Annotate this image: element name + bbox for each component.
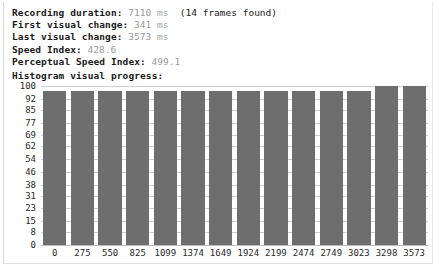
histogram-bar xyxy=(98,91,121,245)
metric-value: 7110 xyxy=(123,7,152,18)
metric-label: Speed Index: xyxy=(12,44,82,55)
x-axis-tick-label: 2474 xyxy=(290,249,318,258)
metric-unit: ms xyxy=(151,19,168,30)
metric-unit: ms xyxy=(151,7,168,18)
metric-row: Perceptual Speed Index: 499.1 xyxy=(12,56,427,68)
histogram-bar xyxy=(320,91,343,245)
histogram-chart: 1009285776962544638312315800275550825109… xyxy=(8,83,432,263)
y-axis-tick-label: 0 xyxy=(8,241,36,250)
y-axis-tick-label: 31 xyxy=(8,192,36,201)
plot-area xyxy=(41,86,428,245)
histogram-bar xyxy=(43,91,66,245)
metric-row: Recording duration: 7110 ms (14 frames f… xyxy=(12,7,427,19)
y-axis-tick-label: 8 xyxy=(8,228,36,237)
histogram-bar xyxy=(71,91,94,245)
metric-value: 341 xyxy=(128,19,151,30)
x-axis-tick-label: 3573 xyxy=(400,249,428,258)
metric-value: 428.6 xyxy=(82,44,116,55)
x-axis-tick-label: 1649 xyxy=(207,249,235,258)
histogram-bar xyxy=(375,86,398,245)
y-axis-tick-label: 38 xyxy=(8,181,36,190)
x-axis-line xyxy=(41,245,428,246)
metric-extra: (14 frames found) xyxy=(168,7,277,18)
x-axis-tick-label: 1374 xyxy=(179,249,207,258)
x-axis-tick-label: 1099 xyxy=(152,249,180,258)
y-axis-tick-label: 54 xyxy=(8,155,36,164)
gridline xyxy=(41,86,428,87)
y-axis-tick-label: 15 xyxy=(8,217,36,226)
histogram-bar xyxy=(264,91,287,245)
histogram-bar xyxy=(403,86,426,245)
histogram-bar xyxy=(126,91,149,245)
x-axis-tick-label: 1924 xyxy=(235,249,263,258)
histogram-bar xyxy=(181,91,204,245)
histogram-bar xyxy=(154,91,177,245)
metric-label: Recording duration: xyxy=(12,7,123,18)
metric-value: 499.1 xyxy=(146,56,180,67)
metric-value: 3573 xyxy=(123,31,152,42)
x-axis-tick-label: 550 xyxy=(96,249,124,258)
y-axis-tick-label: 46 xyxy=(8,168,36,177)
x-axis-tick-label: 3023 xyxy=(345,249,373,258)
metric-row: First visual change: 341 ms xyxy=(12,19,427,31)
y-axis-tick-label: 100 xyxy=(8,82,36,91)
histogram-bar xyxy=(347,91,370,245)
metric-unit: ms xyxy=(151,31,168,42)
x-axis-tick-label: 2749 xyxy=(317,249,345,258)
x-axis-tick-label: 825 xyxy=(124,249,152,258)
x-axis-tick-label: 0 xyxy=(41,249,69,258)
x-axis-tick-label: 2199 xyxy=(262,249,290,258)
y-axis-tick-label: 23 xyxy=(8,204,36,213)
screenshot-root: Recording duration: 7110 ms (14 frames f… xyxy=(0,0,439,269)
histogram-title: Histogram visual progress: xyxy=(12,70,163,81)
y-axis-tick-label: 69 xyxy=(8,131,36,140)
metric-label: Perceptual Speed Index: xyxy=(12,56,146,67)
histogram-bar xyxy=(237,91,260,245)
metric-label: First visual change: xyxy=(12,19,128,30)
histogram-bar xyxy=(292,91,315,245)
metric-row: Speed Index: 428.6 xyxy=(12,44,427,56)
y-axis-tick-label: 92 xyxy=(8,95,36,104)
x-axis-tick-label: 3298 xyxy=(373,249,401,258)
metric-row: Last visual change: 3573 ms xyxy=(12,31,427,43)
y-axis-tick-label: 77 xyxy=(8,119,36,128)
metric-label: Last visual change: xyxy=(12,31,123,42)
y-axis-tick-label: 85 xyxy=(8,106,36,115)
y-axis-tick-label: 62 xyxy=(8,142,36,151)
metrics-summary: Recording duration: 7110 ms (14 frames f… xyxy=(12,7,427,68)
x-axis-tick-label: 275 xyxy=(69,249,97,258)
histogram-bar xyxy=(209,91,232,245)
